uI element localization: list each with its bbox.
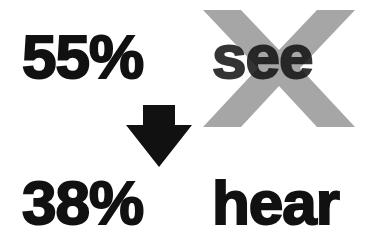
word-hear: hear [212,172,339,234]
percent-see: 55% [22,26,143,88]
arrow-down-icon [126,105,192,167]
word-see: see [212,26,312,88]
percent-hear: 38% [22,172,143,234]
